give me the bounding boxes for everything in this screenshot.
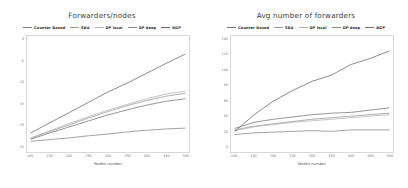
y-tick-label: 10 <box>20 80 24 84</box>
x-axis-title-left: Nodes number <box>26 161 190 166</box>
y-tick-label: 25 <box>20 145 24 149</box>
x-tick-label: 500 <box>387 154 393 158</box>
chart-title-left: Forwarders/nodes <box>10 11 194 21</box>
series-line-dp-deep <box>235 130 389 135</box>
legend-swatch-bgp-right <box>365 27 374 28</box>
charts-board: Forwarders/nodes Counter Based SBA DP lo… <box>0 0 408 188</box>
legend-label-dp-local: DP local <box>106 26 123 30</box>
legend-label-sba: SBA <box>81 26 89 30</box>
plot-wrap-left: 0510152025 100150200250300350400450500 N… <box>10 35 194 167</box>
legend-label-sba-right: SBA <box>285 26 293 30</box>
y-tick-label: 0 <box>226 145 228 149</box>
chart-legend-right: Counter Based SBA DP local DP deep BGP <box>214 23 398 32</box>
series-line-dp-local <box>31 91 185 138</box>
chart-panel-forwarders-nodes: Forwarders/nodes Counter Based SBA DP lo… <box>0 0 204 188</box>
legend-label-bgp-right: BGP <box>376 26 385 30</box>
legend-item-counter-based: Counter Based <box>23 26 65 30</box>
y-tick-label: 20 <box>224 130 228 134</box>
legend-label-dp-deep-right: DP deep <box>343 26 361 30</box>
chart-title-right: Avg number of forwarders <box>214 11 398 21</box>
legend-label-counter-based-right: Counter Based <box>238 26 269 30</box>
x-tick-label: 200 <box>66 154 72 158</box>
legend-swatch-sba <box>70 27 79 28</box>
legend-item-bgp-right: BGP <box>365 26 385 30</box>
x-tick-label: 250 <box>85 154 91 158</box>
x-tick-label: 100 <box>231 154 237 158</box>
legend-swatch-bgp <box>161 27 170 28</box>
x-tick-label: 400 <box>144 154 150 158</box>
legend-swatch-dp-local <box>95 27 104 28</box>
x-tick-label: 500 <box>183 154 189 158</box>
x-tick-label: 300 <box>309 154 315 158</box>
legend-swatch-dp-deep <box>128 27 137 28</box>
y-tick-label: 120 <box>222 52 228 56</box>
x-tick-label: 150 <box>250 154 256 158</box>
x-tick-label: 300 <box>105 154 111 158</box>
legend-item-dp-local-right: DP local <box>299 26 327 30</box>
legend-item-counter-based-right: Counter Based <box>227 26 269 30</box>
series-line-counter-based <box>31 99 185 139</box>
plot-wrap-right: 140120100806040200 100150200250300350400… <box>214 35 398 167</box>
y-tick-label: 0 <box>22 37 24 41</box>
legend-swatch-dp-deep-right <box>332 27 341 28</box>
plot-area-left <box>26 35 190 153</box>
legend-swatch-sba-right <box>274 27 283 28</box>
legend-label-dp-local-right: DP local <box>310 26 327 30</box>
legend-label-dp-deep: DP deep <box>139 26 157 30</box>
panel-inner-left: Forwarders/nodes Counter Based SBA DP lo… <box>10 6 194 182</box>
x-axis-title-right: Nodes number <box>230 161 394 166</box>
x-tick-label: 450 <box>163 154 169 158</box>
y-axis-labels-left: 0510152025 <box>10 35 25 153</box>
chart-panel-avg-forwarders: Avg number of forwarders Counter Based S… <box>204 0 408 188</box>
x-tick-label: 200 <box>270 154 276 158</box>
y-axis-labels-right: 140120100806040200 <box>214 35 229 153</box>
y-tick-label: 80 <box>224 83 228 87</box>
legend-item-dp-deep: DP deep <box>128 26 157 30</box>
legend-label-bgp: BGP <box>172 26 181 30</box>
x-tick-label: 100 <box>27 154 33 158</box>
x-tick-label: 350 <box>328 154 334 158</box>
legend-swatch-counter-based-right <box>227 27 236 28</box>
legend-item-dp-deep-right: DP deep <box>332 26 361 30</box>
x-tick-label: 350 <box>124 154 130 158</box>
x-tick-label: 150 <box>46 154 52 158</box>
line-chart-svg-left <box>27 36 189 152</box>
series-line-dp-local <box>235 115 389 131</box>
legend-swatch-counter-based <box>23 27 32 28</box>
legend-item-bgp: BGP <box>161 26 181 30</box>
legend-item-sba-right: SBA <box>274 26 293 30</box>
x-tick-label: 250 <box>289 154 295 158</box>
legend-swatch-dp-local-right <box>299 27 308 28</box>
y-tick-label: 100 <box>222 68 228 72</box>
panel-inner-right: Avg number of forwarders Counter Based S… <box>214 6 398 182</box>
y-tick-label: 40 <box>224 114 228 118</box>
legend-label-counter-based: Counter Based <box>34 26 65 30</box>
y-tick-label: 140 <box>222 37 228 41</box>
y-tick-label: 60 <box>224 99 228 103</box>
y-tick-label: 5 <box>22 59 24 63</box>
x-tick-label: 400 <box>348 154 354 158</box>
y-tick-label: 15 <box>20 102 24 106</box>
y-tick-label: 20 <box>20 123 24 127</box>
legend-item-sba: SBA <box>70 26 89 30</box>
line-chart-svg-right <box>231 36 393 152</box>
chart-legend-left: Counter Based SBA DP local DP deep BGP <box>10 23 194 32</box>
legend-item-dp-local: DP local <box>95 26 123 30</box>
x-tick-label: 450 <box>367 154 373 158</box>
series-line-bgp <box>31 54 185 133</box>
plot-area-right <box>230 35 394 153</box>
